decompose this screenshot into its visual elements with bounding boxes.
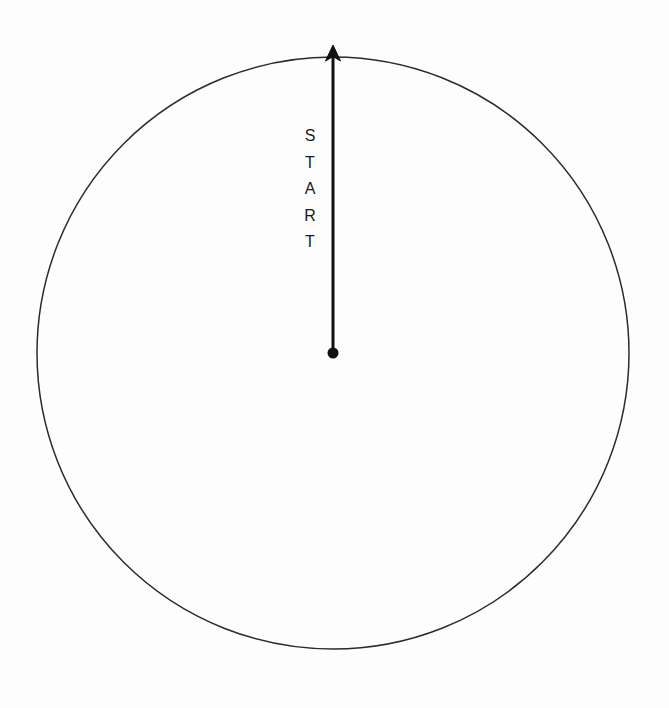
- start-label-letter-2: T: [305, 155, 315, 171]
- diagram-canvas: S T A R T: [0, 0, 669, 708]
- start-label: S T A R T: [296, 128, 324, 250]
- start-label-letter-4: R: [304, 208, 316, 224]
- start-label-letter-1: S: [305, 128, 316, 144]
- start-label-letter-3: A: [305, 181, 316, 197]
- arrow-origin-dot: [328, 348, 339, 359]
- start-label-letter-5: T: [305, 234, 315, 250]
- start-diagram: [0, 0, 669, 708]
